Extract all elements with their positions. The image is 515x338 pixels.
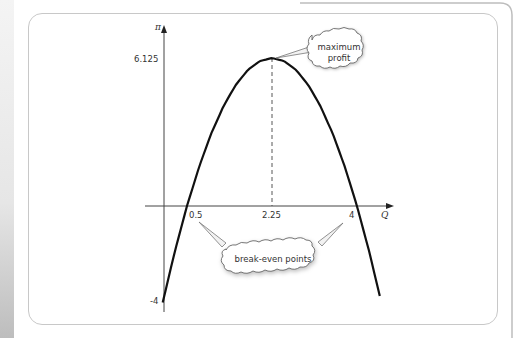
x-tick-break1: 0.5	[189, 210, 203, 220]
y-tick-min: -4	[150, 296, 158, 306]
x-axis-label: Q	[381, 210, 389, 220]
x-axis-arrow-icon	[386, 203, 394, 209]
callout-max-line1: maximum	[318, 42, 361, 52]
profit-chart: π 6.125 -4 0.5 2.25 4 Q maximum profit b…	[0, 0, 515, 338]
callout-max-line2: profit	[328, 53, 351, 63]
y-axis-label: π	[154, 22, 162, 32]
callout-break-text: break-even points	[235, 254, 312, 264]
y-axis-arrow-icon	[161, 25, 167, 33]
break-even-callout: break-even points	[199, 222, 343, 273]
x-tick-break2: 4	[349, 210, 354, 220]
x-tick-peak: 2.25	[262, 210, 281, 220]
max-profit-callout: maximum profit	[276, 28, 363, 69]
y-tick-max: 6.125	[134, 54, 158, 64]
